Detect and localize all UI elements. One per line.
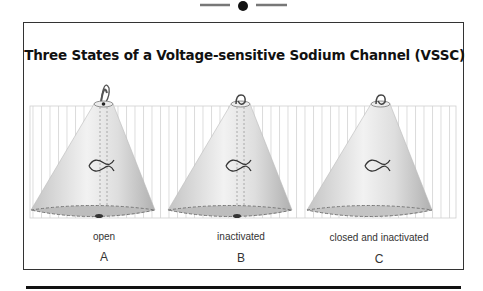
panel-letter-a: A — [34, 250, 174, 264]
header-ornament — [0, 0, 483, 20]
state-label-a: open — [34, 231, 174, 242]
state-label-b: inactivated — [171, 231, 311, 242]
panel-letter-c: C — [309, 252, 449, 266]
bottom-divider — [26, 286, 461, 289]
state-label-c: closed and inactivated — [309, 232, 449, 243]
panel-letter-b: B — [171, 251, 311, 265]
figure-frame: Three States of a Voltage-sensitive Sodi… — [23, 22, 464, 270]
